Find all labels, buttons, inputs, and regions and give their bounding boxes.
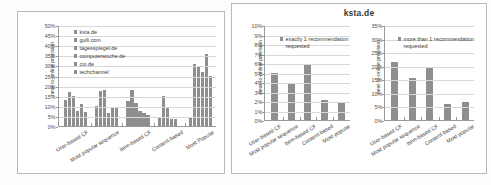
legend-swatch-icon xyxy=(280,37,283,40)
legend-item: gulli.com xyxy=(74,37,125,44)
gridline xyxy=(265,26,350,27)
gridline xyxy=(385,80,474,81)
gridline xyxy=(59,107,216,108)
gridline xyxy=(59,97,216,98)
bar xyxy=(103,90,106,126)
gridline xyxy=(265,112,350,113)
left-x-axis-labels: User-based CFMost popular sequenceItem-b… xyxy=(58,127,216,173)
bar xyxy=(72,96,75,126)
bar xyxy=(142,113,145,126)
bar xyxy=(189,117,192,126)
legend-swatch-icon xyxy=(74,62,77,65)
gridline xyxy=(385,94,474,95)
y-axis-tick-mark xyxy=(56,87,58,88)
y-axis-tick-mark xyxy=(382,80,384,81)
exactly-one-legend: exactly 1 recommendation requested xyxy=(280,36,350,51)
gridline xyxy=(265,74,350,75)
bar xyxy=(84,112,87,126)
legend-label: techchannel xyxy=(80,69,109,76)
legend-label: cio.de xyxy=(80,61,94,68)
gridline xyxy=(265,55,350,56)
y-axis-tick-mark xyxy=(382,67,384,68)
left-legend: ksta.degulli.comtagesspiegel.decomputerw… xyxy=(74,29,125,77)
y-axis-tick-mark xyxy=(56,97,58,98)
bar xyxy=(107,113,110,126)
bar xyxy=(205,54,208,126)
legend-label: ksta.de xyxy=(80,29,97,36)
bar xyxy=(271,73,278,121)
gridline xyxy=(385,26,474,27)
legend-swatch-icon xyxy=(74,70,77,73)
legend-label: tagesspiegel.de xyxy=(80,45,118,52)
y-axis-tick-mark xyxy=(56,117,58,118)
x-axis-category-label: Most Popular xyxy=(185,129,215,151)
y-axis-tick-mark xyxy=(382,26,384,27)
y-axis-tick-mark xyxy=(56,56,58,57)
more-than-one-bar-chart: 0%5%10%15%20%25%30%35% near-to-online pr… xyxy=(384,26,474,121)
legend-swatch-icon xyxy=(398,37,401,40)
x-axis-category-label: Item-based CF xyxy=(118,129,152,153)
gridline xyxy=(59,117,216,118)
gridline xyxy=(265,93,350,94)
legend-item: tagesspiegel.de xyxy=(74,45,125,52)
gridline xyxy=(385,107,474,108)
legend-swatch-icon xyxy=(74,38,77,41)
y-axis-tick-mark xyxy=(382,40,384,41)
y-axis-tick-mark xyxy=(56,107,58,108)
gridline xyxy=(385,67,474,68)
x-axis-category-label: Content-based xyxy=(150,129,183,152)
legend-swatch-icon xyxy=(74,30,77,33)
right-chart-panel: ksta.de 0%1%2%3%4%5%6%7%8%9%10% near-to-… xyxy=(231,3,487,174)
gridline xyxy=(59,87,216,88)
more-than-one-y-axis-title: near-to-online precision xyxy=(375,17,381,117)
legend-item: exactly 1 recommendation requested xyxy=(280,36,350,50)
more-than-one-x-axis-labels: User-based CFMost popular sequenceItem-b… xyxy=(384,121,474,167)
legend-label: gulli.com xyxy=(80,37,101,44)
y-axis-tick-mark xyxy=(382,107,384,108)
bar xyxy=(201,72,204,126)
legend-item: more than 1 recommendation requested xyxy=(398,36,474,50)
bar xyxy=(130,90,133,126)
left-y-axis-title: near-to-online precision xyxy=(49,19,55,119)
bar xyxy=(76,111,79,126)
more-than-one-legend: more than 1 recommendation requested xyxy=(398,36,474,51)
bar xyxy=(64,100,67,126)
bar xyxy=(409,78,416,120)
gridline xyxy=(265,102,350,103)
exactly-one-bar-chart: 0%1%2%3%4%5%6%7%8%9%10% near-to-online p… xyxy=(264,26,350,121)
y-axis-tick-mark xyxy=(382,53,384,54)
gridline xyxy=(385,53,474,54)
figure-canvas: 0%5%10%15%20%25%30%35%40%45%50% near-to-… xyxy=(0,0,491,185)
bar xyxy=(126,101,129,126)
exactly-one-y-axis-title: near-to-online precision xyxy=(257,17,263,117)
y-axis-tick-mark xyxy=(56,26,58,27)
bar xyxy=(321,100,328,120)
bar xyxy=(391,62,398,120)
bar xyxy=(444,104,451,120)
y-axis-tick-mark xyxy=(56,77,58,78)
legend-label: exactly 1 recommendation requested xyxy=(286,36,350,50)
legend-item: ksta.de xyxy=(74,29,125,36)
bar xyxy=(162,96,165,126)
legend-item: cio.de xyxy=(74,61,125,68)
left-chart-panel: 0%5%10%15%20%25%30%35%40%45%50% near-to-… xyxy=(17,11,225,174)
legend-swatch-icon xyxy=(74,54,77,57)
y-axis-tick-mark xyxy=(56,36,58,37)
bar xyxy=(170,119,173,126)
bar xyxy=(138,111,141,126)
bar xyxy=(158,117,161,126)
gridline xyxy=(59,26,216,27)
gridline xyxy=(265,64,350,65)
gridline xyxy=(265,83,350,84)
y-axis-tick-mark xyxy=(382,94,384,95)
bar xyxy=(174,119,177,126)
legend-item: techchannel xyxy=(74,69,125,76)
bar xyxy=(462,102,469,120)
right-panel-title: ksta.de xyxy=(232,8,486,18)
y-axis-tick-mark xyxy=(56,46,58,47)
exactly-one-x-axis-labels: User-based CFMost popular sequenceItem-b… xyxy=(264,121,350,167)
legend-item: computerwoche.de xyxy=(74,53,125,60)
y-axis-tick-mark xyxy=(56,66,58,67)
legend-label: computerwoche.de xyxy=(80,53,126,60)
bar xyxy=(209,76,212,126)
